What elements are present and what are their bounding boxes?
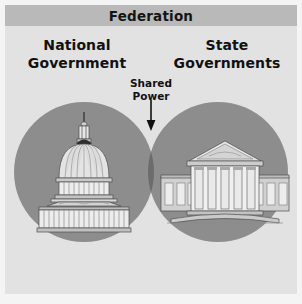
diagram-panel: Federation National Government State Gov…	[5, 5, 297, 294]
label-national-line2: Government	[13, 54, 141, 72]
page-title: Federation	[109, 8, 193, 24]
label-shared-line1: Shared	[105, 77, 197, 90]
label-national-line1: National	[13, 36, 141, 54]
label-state-line1: State	[163, 36, 291, 54]
label-national-government: National Government	[13, 36, 141, 72]
us-capitol-icon	[19, 110, 149, 240]
diagram-frame: Federation National Government State Gov…	[0, 0, 302, 304]
label-state-line2: Governments	[163, 54, 291, 72]
state-capitol-icon	[157, 135, 293, 235]
header-band: Federation	[5, 5, 297, 26]
label-state-governments: State Governments	[163, 36, 291, 72]
